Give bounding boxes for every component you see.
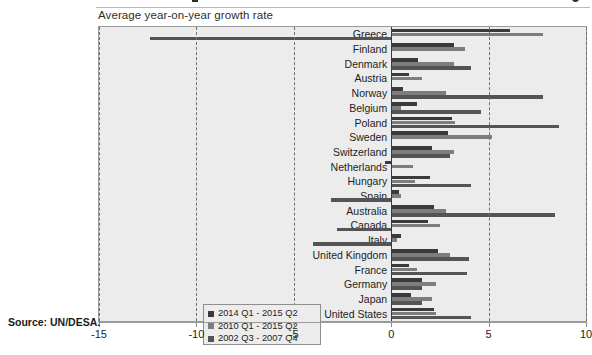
bar: [391, 224, 440, 228]
bar: [391, 184, 471, 188]
bar: [391, 47, 465, 51]
bar-row: Japan: [99, 292, 586, 307]
header-glyph-left: [192, 0, 198, 2]
bar: [391, 272, 467, 276]
category-label: Austria: [355, 73, 388, 84]
category-label: Netherlands: [331, 162, 388, 173]
category-label: Finland: [353, 44, 387, 55]
category-label: United Kingdom: [312, 250, 387, 261]
bar-row: Norway: [99, 86, 586, 101]
bar-row: Spain: [99, 189, 586, 204]
bar-row: France: [99, 262, 586, 277]
x-axis-line: [98, 322, 587, 323]
bar-row: Greece: [99, 27, 586, 42]
category-label: Norway: [352, 88, 388, 99]
bar: [391, 77, 422, 81]
plot-area: GreeceFinlandDenmarkAustriaNorwayBelgium…: [98, 26, 587, 322]
page-header-crop: [96, 0, 590, 6]
bar: [391, 213, 555, 217]
bar-row: Hungary: [99, 174, 586, 189]
axis-tick: [586, 323, 587, 327]
bar: [391, 125, 559, 129]
bar: [391, 135, 492, 139]
category-label: Poland: [355, 118, 388, 129]
bar-row: Canada: [99, 218, 586, 233]
bar: [150, 37, 392, 41]
category-label: United States: [324, 309, 387, 320]
category-label: France: [355, 265, 388, 276]
gridline: [489, 27, 490, 321]
bar: [391, 110, 481, 114]
bar-row: Finland: [99, 42, 586, 57]
gridline: [196, 27, 197, 321]
bar-row: Italy: [99, 233, 586, 248]
axis-tick-label: 5: [486, 328, 492, 340]
gridline: [294, 27, 295, 321]
bar-row: Poland: [99, 115, 586, 130]
bar-row: Belgium: [99, 101, 586, 116]
bar-row: Switzerland: [99, 145, 586, 160]
legend-swatch-icon: [208, 311, 214, 317]
bar-row: Austria: [99, 71, 586, 86]
axis-tick-label: -10: [188, 328, 204, 340]
bar: [391, 154, 449, 158]
category-label: Belgium: [349, 103, 387, 114]
bar: [391, 165, 412, 169]
bar: [331, 198, 391, 202]
bar: [313, 242, 391, 246]
category-label: Switzerland: [333, 147, 387, 158]
zero-line: [391, 27, 392, 321]
bar: [391, 194, 401, 198]
bar: [391, 301, 422, 305]
bar: [391, 286, 422, 290]
axis-tick-label: -5: [289, 328, 299, 340]
bar: [391, 95, 543, 99]
axis-tick-label: -15: [91, 328, 107, 340]
bar-row: Netherlands: [99, 159, 586, 174]
chart-subtitle: Average year-on-year growth rate: [98, 9, 273, 21]
bar: [337, 228, 392, 232]
legend-item: 2014 Q1 - 2015 Q2: [208, 308, 316, 320]
axis-tick-label: 0: [388, 328, 394, 340]
bar-rows: GreeceFinlandDenmarkAustriaNorwayBelgium…: [99, 27, 586, 321]
axis-tick-label: 10: [580, 328, 592, 340]
axis-tick: [489, 323, 490, 327]
gridline: [99, 27, 100, 321]
header-divider: [96, 7, 590, 8]
category-label: Germany: [344, 279, 387, 290]
axis-tick: [196, 323, 197, 327]
axis-tick: [294, 323, 295, 327]
category-label: Denmark: [345, 59, 388, 70]
bar: [391, 33, 543, 37]
source-note: Source: UN/DESA.: [8, 316, 100, 328]
bar-row: Denmark: [99, 56, 586, 71]
legend-label: 2014 Q1 - 2015 Q2: [218, 309, 298, 318]
bar-row: Germany: [99, 277, 586, 292]
bar: [391, 66, 471, 70]
gridline: [586, 27, 587, 321]
category-label: Sweden: [349, 132, 387, 143]
category-label: Japan: [359, 294, 388, 305]
bar: [391, 316, 471, 320]
header-glyph-right: [572, 0, 579, 2]
bar-row: United States: [99, 306, 586, 321]
category-label: Australia: [346, 206, 387, 217]
bar-row: United Kingdom: [99, 248, 586, 263]
bar: [391, 257, 469, 261]
category-label: Hungary: [348, 176, 388, 187]
bar-row: Sweden: [99, 130, 586, 145]
axis-tick: [391, 323, 392, 327]
bar-row: Australia: [99, 203, 586, 218]
